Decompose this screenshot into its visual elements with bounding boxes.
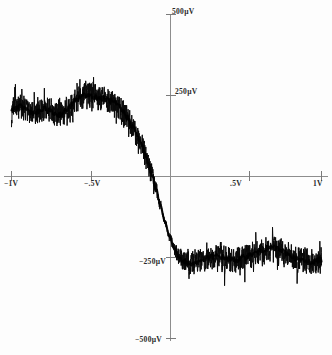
y-axis-label-neg500uv: −500µV bbox=[135, 336, 162, 344]
x-axis-label-pos1v: 1V bbox=[313, 180, 323, 188]
plot-canvas bbox=[0, 0, 332, 355]
x-axis-label-pos-half-v: .5V bbox=[230, 180, 242, 188]
plot-figure: 500µV 250µV −250µV −500µV −1V −.5V .5V 1… bbox=[0, 0, 332, 355]
y-axis-label-neg250uv: −250µV bbox=[139, 258, 166, 266]
y-axis-label-500uv: 500µV bbox=[172, 8, 195, 16]
y-axis-label-250uv: 250µV bbox=[175, 88, 198, 96]
x-axis-label-neg-half-v: −.5V bbox=[84, 180, 101, 188]
x-axis-label-neg1v: −1V bbox=[4, 180, 18, 188]
signal-trace-noise bbox=[12, 77, 322, 286]
